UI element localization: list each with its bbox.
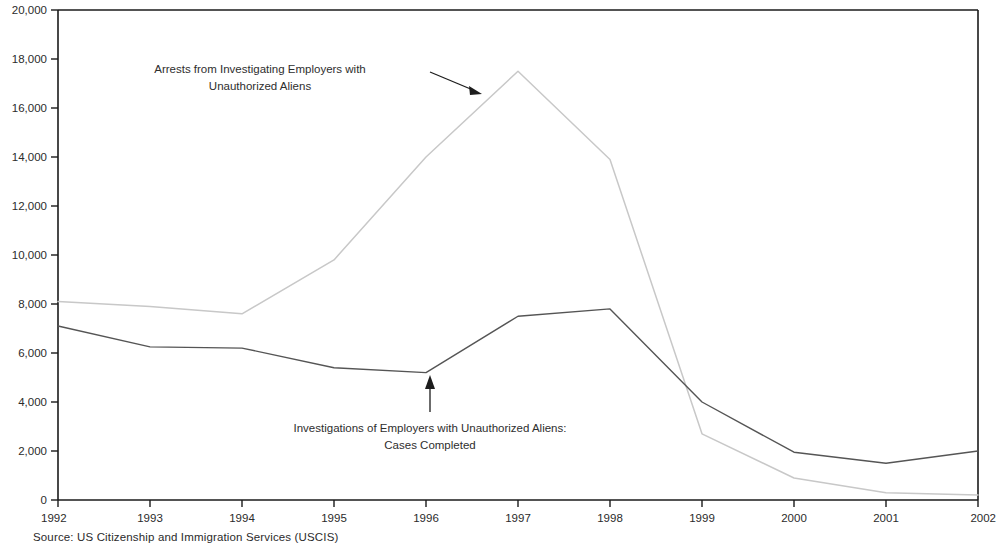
x-tick-label: 1997	[505, 512, 531, 524]
y-tick-label: 10,000	[12, 249, 47, 261]
chart-annotations: Arrests from Investigating Employers wit…	[154, 63, 566, 451]
annotation-investigations-line1: Investigations of Employers with Unautho…	[294, 422, 567, 434]
y-tick-label: 2,000	[18, 445, 47, 457]
x-tick-label: 2001	[873, 512, 899, 524]
x-tick-label: 1994	[229, 512, 255, 524]
annotation-investigations-arrow-head	[425, 375, 435, 389]
x-axis-ticks: 1992199319941995199619971998199920002001…	[41, 500, 996, 524]
x-tick-label: 1992	[41, 512, 67, 524]
y-tick-label: 18,000	[12, 53, 47, 65]
y-tick-label: 4,000	[18, 396, 47, 408]
y-tick-label: 16,000	[12, 102, 47, 114]
x-tick-label: 1999	[689, 512, 715, 524]
annotation-arrests-arrow-line	[430, 72, 473, 90]
annotation-arrests-line1: Arrests from Investigating Employers wit…	[154, 63, 366, 75]
x-tick-label: 2002	[970, 512, 996, 524]
line-chart: 02,0004,0006,0008,00010,00012,00014,0001…	[0, 0, 1001, 558]
chart-figure: 02,0004,0006,0008,00010,00012,00014,0001…	[0, 0, 1001, 558]
y-tick-label: 8,000	[18, 298, 47, 310]
x-tick-label: 2000	[781, 512, 807, 524]
x-tick-label: 1996	[413, 512, 439, 524]
y-tick-label: 14,000	[12, 151, 47, 163]
x-tick-label: 1993	[137, 512, 163, 524]
source-note: Source: US Citizenship and Immigration S…	[33, 531, 338, 543]
y-tick-label: 12,000	[12, 200, 47, 212]
annotation-arrests-line2: Unauthorized Aliens	[209, 80, 312, 92]
series-line-investigations	[58, 309, 978, 463]
y-tick-label: 6,000	[18, 347, 47, 359]
y-tick-label: 20,000	[12, 4, 47, 16]
y-tick-label: 0	[41, 494, 47, 506]
annotation-arrests-arrow-head	[469, 86, 482, 95]
annotation-investigations-line2: Cases Completed	[384, 439, 475, 451]
y-axis-ticks: 02,0004,0006,0008,00010,00012,00014,0001…	[12, 4, 58, 506]
x-tick-label: 1998	[597, 512, 623, 524]
x-tick-label: 1995	[321, 512, 347, 524]
